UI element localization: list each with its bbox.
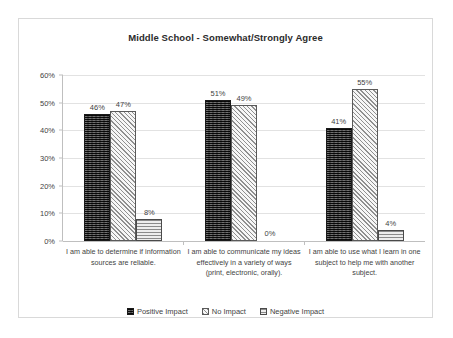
bar[interactable]: 51%	[205, 100, 231, 241]
x-axis-category-labels: I am able to determine if information so…	[63, 247, 425, 279]
plot-area: 0%10%20%30%40%50%60% 46%47%8%51%49%0%41%…	[63, 75, 425, 241]
category-divider-tick	[183, 241, 184, 245]
y-axis-tick-label: 0%	[44, 237, 55, 246]
bar[interactable]: 41%	[326, 128, 352, 241]
bar[interactable]: 47%	[110, 111, 136, 241]
y-axis-tick-label: 30%	[40, 154, 55, 163]
legend-swatch-icon	[127, 308, 134, 315]
axis-baseline	[63, 241, 425, 242]
bar-slot: 46%	[84, 75, 110, 241]
legend-item[interactable]: Negative Impact	[260, 307, 324, 316]
bar-slot: 8%	[136, 75, 162, 241]
y-axis-tick-label: 10%	[40, 209, 55, 218]
bar-group: 46%47%8%	[63, 75, 184, 241]
bar-slot: 49%	[231, 75, 257, 241]
bar[interactable]: 8%	[136, 219, 162, 241]
legend-label: Positive Impact	[137, 307, 188, 316]
y-axis-tick-label: 40%	[40, 126, 55, 135]
bar-group: 51%49%0%	[184, 75, 305, 241]
y-axis: 0%10%20%30%40%50%60%	[23, 75, 59, 241]
chart-title: Middle School - Somewhat/Strongly Agree	[19, 32, 432, 43]
bar-value-label: 55%	[357, 78, 372, 87]
bar-group: 41%55%4%	[304, 75, 425, 241]
x-axis-category-label: I am able to determine if information so…	[63, 247, 184, 279]
bar-slot: 47%	[110, 75, 136, 241]
bar-value-label: 4%	[385, 219, 396, 228]
legend-label: Negative Impact	[270, 307, 324, 316]
bar-slot: 4%	[378, 75, 404, 241]
x-axis-category-label: I am able to communicate my ideas effect…	[184, 247, 305, 279]
bar-value-label: 47%	[116, 100, 131, 109]
chart-legend: Positive ImpactNo ImpactNegative Impact	[19, 307, 432, 316]
bar-value-label: 49%	[236, 94, 251, 103]
bar-value-label: 0%	[265, 229, 276, 238]
y-axis-tick-label: 60%	[40, 71, 55, 80]
category-divider-tick	[304, 241, 305, 245]
bar-value-label: 8%	[144, 208, 155, 217]
legend-swatch-icon	[260, 308, 267, 315]
legend-label: No Impact	[212, 307, 246, 316]
x-axis-category-label: I am able to use what I learn in one sub…	[304, 247, 425, 279]
bar-groups: 46%47%8%51%49%0%41%55%4%	[63, 75, 425, 241]
bar[interactable]: 55%	[352, 89, 378, 241]
bar-slot: 51%	[205, 75, 231, 241]
chart-container: Middle School - Somewhat/Strongly Agree …	[18, 18, 433, 318]
legend-item[interactable]: Positive Impact	[127, 307, 188, 316]
bar[interactable]: 46%	[84, 114, 110, 241]
bar-value-label: 51%	[210, 89, 225, 98]
y-axis-tick-label: 20%	[40, 181, 55, 190]
bar-slot: 0%	[257, 75, 283, 241]
bar-slot: 41%	[326, 75, 352, 241]
bar[interactable]: 4%	[378, 230, 404, 241]
bar-slot: 55%	[352, 75, 378, 241]
legend-item[interactable]: No Impact	[202, 307, 246, 316]
y-axis-tick-label: 50%	[40, 98, 55, 107]
legend-swatch-icon	[202, 308, 209, 315]
bar-value-label: 46%	[90, 103, 105, 112]
bar-value-label: 41%	[331, 117, 346, 126]
bar[interactable]: 49%	[231, 105, 257, 241]
